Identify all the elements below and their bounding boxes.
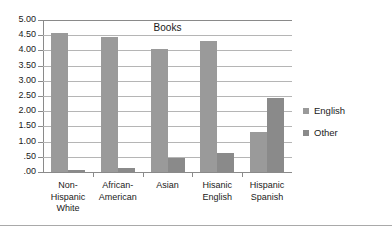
bar-english	[250, 132, 267, 172]
y-axis-tick-label: 4.50	[0, 30, 36, 39]
chart-title: Books	[43, 22, 292, 34]
plot-area	[43, 20, 292, 172]
y-axis-tick	[38, 142, 43, 143]
bar-group	[250, 20, 284, 172]
y-axis-tick	[38, 111, 43, 112]
bar-group	[51, 20, 85, 172]
x-axis-label-line: American	[93, 192, 143, 204]
y-axis-tick	[38, 50, 43, 51]
x-axis-label-line: Asian	[143, 180, 193, 192]
x-axis-label: HispanicSpanish	[242, 180, 292, 203]
y-axis-tick-label: .50	[0, 152, 36, 161]
bar-other	[68, 170, 85, 172]
chart-figure: 5.004.504.003.503.002.502.001.501.00.50.…	[0, 0, 392, 236]
bar-group	[151, 20, 185, 172]
bar-english	[151, 49, 168, 172]
x-axis-tick	[192, 173, 193, 177]
x-axis-tick	[242, 173, 243, 177]
x-axis-label-line: Hispanic	[43, 192, 93, 204]
y-axis-tick-label: 1.50	[0, 121, 36, 130]
legend-label: Other	[314, 128, 338, 138]
x-axis-label: HisanicEnglish	[192, 180, 242, 203]
y-axis-tick	[38, 35, 43, 36]
bar-english	[51, 33, 68, 172]
x-axis-label-line: White	[43, 203, 93, 215]
x-axis-label-line: Non-	[43, 180, 93, 192]
y-axis-tick-label: 3.00	[0, 76, 36, 85]
x-axis-label: Non-HispanicWhite	[43, 180, 93, 215]
legend-entry[interactable]: Other	[303, 125, 389, 141]
y-axis-tick-labels: 5.004.504.003.503.002.502.001.501.00.50.…	[0, 0, 36, 236]
y-axis-tick	[38, 20, 43, 21]
bar-other	[168, 158, 185, 172]
legend-english-swatch	[303, 108, 309, 114]
bottom-divider	[0, 225, 392, 226]
y-axis-tick-label: 5.00	[0, 15, 36, 24]
x-axis-tick	[93, 173, 94, 177]
x-axis-label: Asian	[143, 180, 193, 192]
bar-english	[101, 37, 118, 172]
bar-other	[118, 168, 135, 172]
chart-legend: EnglishOther	[303, 103, 389, 147]
x-axis-label: African-American	[93, 180, 143, 203]
y-axis-tick	[38, 66, 43, 67]
y-axis-tick	[38, 126, 43, 127]
x-axis-label-line: English	[192, 192, 242, 204]
y-axis-tick-label: .00	[0, 167, 36, 176]
legend-label: English	[314, 106, 345, 116]
bar-english	[200, 41, 217, 172]
x-axis-label-line: Hisanic	[192, 180, 242, 192]
bar-group	[101, 20, 135, 172]
x-axis-label-line: Spanish	[242, 192, 292, 204]
bar-other	[217, 153, 234, 172]
x-axis-label-line: African-	[93, 180, 143, 192]
y-axis-tick-label: 2.00	[0, 106, 36, 115]
y-axis-tick-label: 3.50	[0, 61, 36, 70]
x-axis-label-line: Hispanic	[242, 180, 292, 192]
y-axis-tick-label: 2.50	[0, 91, 36, 100]
legend-entry[interactable]: English	[303, 103, 389, 119]
gridline	[43, 172, 292, 173]
legend-other-swatch	[303, 130, 309, 136]
y-axis-tick-label: 1.00	[0, 137, 36, 146]
y-axis-tick-label: 4.00	[0, 45, 36, 54]
x-axis-category-labels: Non-HispanicWhiteAfrican-AmericanAsianHi…	[43, 180, 292, 230]
x-axis-tick	[143, 173, 144, 177]
y-axis-tick	[38, 157, 43, 158]
y-axis-tick	[38, 172, 43, 173]
y-axis-tick	[38, 96, 43, 97]
bar-group	[200, 20, 234, 172]
y-axis-tick	[38, 81, 43, 82]
bar-other	[267, 98, 284, 172]
